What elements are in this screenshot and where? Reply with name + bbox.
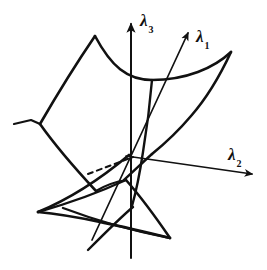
left-wing-lower-edge bbox=[40, 124, 96, 191]
axis-label-lambda2-symbol: λ bbox=[228, 145, 236, 164]
axis-label-lambda1: λ1 bbox=[196, 28, 209, 48]
right-wing-outer-edge bbox=[152, 52, 231, 154]
figure-canvas: λ3 λ1 λ2 bbox=[0, 0, 267, 270]
axis-label-lambda2: λ2 bbox=[228, 146, 241, 166]
axis-label-lambda1-symbol: λ bbox=[196, 27, 204, 46]
left-wing-upper-edge bbox=[40, 36, 95, 124]
axis-label-lambda3-symbol: λ bbox=[140, 11, 148, 30]
swallowtail-surface-drawing bbox=[0, 0, 267, 270]
right-wing-inner-fold bbox=[132, 80, 152, 206]
top-rim-curve bbox=[95, 36, 231, 80]
axis-label-lambda1-subscript: 1 bbox=[205, 40, 210, 51]
axis-label-lambda2-subscript: 2 bbox=[237, 158, 242, 169]
axis-label-lambda3-subscript: 3 bbox=[149, 24, 154, 35]
left-fold-corner-spur bbox=[14, 120, 40, 124]
axis-label-lambda3: λ3 bbox=[140, 12, 153, 32]
